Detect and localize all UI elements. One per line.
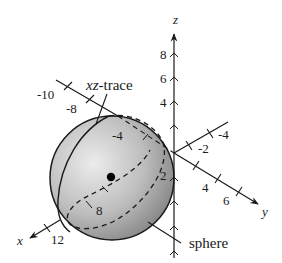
z-tick-label-6: 6 xyxy=(160,71,167,86)
sphere-leader xyxy=(148,222,181,243)
x-axis-label: x xyxy=(16,233,23,248)
y-tick-label-6: 6 xyxy=(223,193,230,208)
x-tick-label-12: 12 xyxy=(51,232,64,247)
y-axis-label: y xyxy=(260,204,268,219)
z-axis xyxy=(170,34,178,258)
sphere-diagram: z y x 8 6 4 -10 -8 -4 2 8 12 -4 -2 4 6 x… xyxy=(0,0,282,263)
z-axis-label: z xyxy=(172,12,178,27)
x-tick-label-8: 8 xyxy=(96,203,103,218)
sphere-center-dot xyxy=(107,173,115,181)
y-tick-label--4: -4 xyxy=(218,127,229,142)
xz-trace-label: xz-trace xyxy=(85,77,133,93)
x-tick-label-2: 2 xyxy=(160,168,167,183)
x-tick-label--8: -8 xyxy=(66,101,77,116)
x-tick-label--10: -10 xyxy=(37,87,54,102)
z-tick-label-8: 8 xyxy=(160,47,167,62)
y-axis-positive xyxy=(174,153,258,204)
z-tick-label-4: 4 xyxy=(160,95,167,110)
x-tick-label--4: -4 xyxy=(112,128,123,143)
y-tick-label-4: 4 xyxy=(202,180,209,195)
y-tick-label--2: -2 xyxy=(198,141,209,156)
sphere-label: sphere xyxy=(189,235,228,251)
